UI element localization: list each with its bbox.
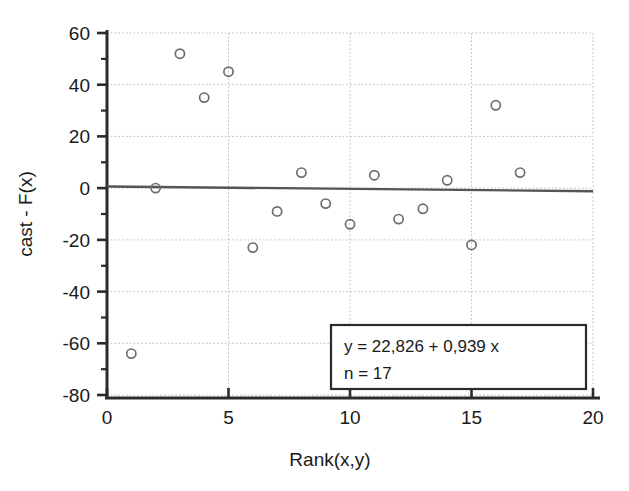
x-tick-label-20: 20 xyxy=(582,407,603,428)
y-tick-label-n40: -40 xyxy=(63,282,90,303)
y-tick-label-60: 60 xyxy=(69,23,90,44)
y-tick-label-n60: -60 xyxy=(63,333,90,354)
x-tick-label-5: 5 xyxy=(223,407,234,428)
legend-equation-text: y = 22,826 + 0,939 x xyxy=(344,337,500,356)
plot-canvas: 60 40 20 0 -20 -40 -60 -80 0 5 10 15 20 xyxy=(0,0,629,491)
scatter-plot-figure: 60 40 20 0 -20 -40 -60 -80 0 5 10 15 20 xyxy=(0,0,629,491)
y-axis-title: cast - F(x) xyxy=(15,171,36,257)
y-axis-tick-labels: 60 40 20 0 -20 -40 -60 -80 xyxy=(63,23,90,406)
legend-sample-size-text: n = 17 xyxy=(344,364,392,383)
x-tick-label-10: 10 xyxy=(339,407,360,428)
y-tick-label-20: 20 xyxy=(69,126,90,147)
y-tick-label-n20: -20 xyxy=(63,230,90,251)
x-axis-title: Rank(x,y) xyxy=(289,449,370,470)
x-tick-label-15: 15 xyxy=(461,407,482,428)
y-tick-label-n80: -80 xyxy=(63,385,90,406)
x-axis-tick-labels: 0 5 10 15 20 xyxy=(102,407,604,428)
x-tick-label-0: 0 xyxy=(102,407,113,428)
y-tick-label-40: 40 xyxy=(69,75,90,96)
y-tick-label-0: 0 xyxy=(79,178,90,199)
equation-legend-box: y = 22,826 + 0,939 x n = 17 xyxy=(331,325,586,389)
